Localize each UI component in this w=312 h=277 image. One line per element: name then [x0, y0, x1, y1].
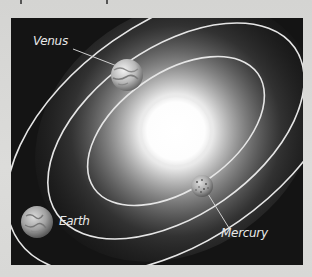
- planet-mercury: [191, 175, 213, 197]
- label-venus: Venus: [33, 34, 68, 48]
- sun: [142, 97, 210, 165]
- planet-earth: [21, 206, 53, 238]
- label-mercury: Mercury: [221, 226, 268, 240]
- solar-system-diagram: Venus Earth Mercury: [11, 18, 303, 265]
- clipped-text-above: [0, 0, 312, 6]
- planet-venus: [111, 59, 143, 91]
- label-earth: Earth: [59, 214, 90, 228]
